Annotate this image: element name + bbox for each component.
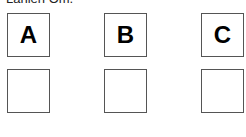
label-box-b: B (104, 13, 147, 57)
answer-box-a[interactable] (7, 69, 50, 113)
label-box-a: A (7, 13, 50, 57)
answer-box-b[interactable] (104, 69, 147, 113)
instruction-text: Lanien Om. (6, 0, 73, 6)
answer-box-c[interactable] (201, 69, 244, 113)
label-box-c: C (201, 13, 244, 57)
